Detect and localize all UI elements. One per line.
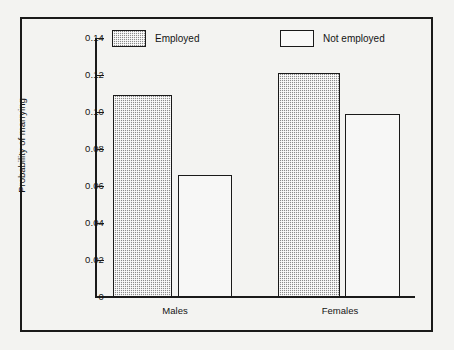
y-tick-0.04: 0.04	[48, 217, 104, 229]
bar-males-not-employed[interactable]	[178, 175, 232, 297]
y-tick-mark-0.10	[97, 112, 104, 113]
y-tick-mark-0.08	[97, 149, 104, 150]
legend-entry-employed[interactable]: Employed	[112, 30, 199, 47]
y-tick-0: 0	[48, 291, 104, 303]
x-category-label-females: Females	[295, 305, 385, 316]
y-tick-label: 0	[64, 291, 104, 302]
bar-females-not-employed[interactable]	[345, 114, 400, 297]
y-tick-0.08: 0.08	[48, 143, 104, 155]
legend-label-not-employed: Not employed	[323, 33, 385, 44]
y-tick-0.06: 0.06	[48, 180, 104, 192]
y-axis-title: Probability of marrying	[16, 81, 27, 211]
plot-area: Probability of marrying 0.14 0.12 0.10 0…	[0, 0, 454, 350]
y-tick-mark-0.02	[97, 260, 104, 261]
y-tick-0.12: 0.12	[48, 69, 104, 81]
y-tick-0.14: 0.14	[48, 32, 104, 44]
bar-males-employed[interactable]	[113, 95, 172, 297]
y-tick-0.10: 0.10	[48, 106, 104, 118]
legend-label-employed: Employed	[155, 33, 199, 44]
figure-canvas: Probability of marrying 0.14 0.12 0.10 0…	[0, 0, 454, 350]
y-tick-mark-0.04	[97, 223, 104, 224]
legend-swatch-employed-icon	[112, 30, 146, 47]
x-category-label-males: Males	[130, 305, 220, 316]
bar-females-employed[interactable]	[278, 73, 340, 297]
y-tick-mark-0.12	[97, 75, 104, 76]
legend-swatch-not-employed-icon	[280, 30, 314, 47]
legend-entry-not-employed[interactable]: Not employed	[280, 30, 385, 47]
y-tick-mark-0.14	[97, 38, 104, 39]
y-tick-mark-0.06	[97, 186, 104, 187]
y-tick-0.02: 0.02	[48, 254, 104, 266]
